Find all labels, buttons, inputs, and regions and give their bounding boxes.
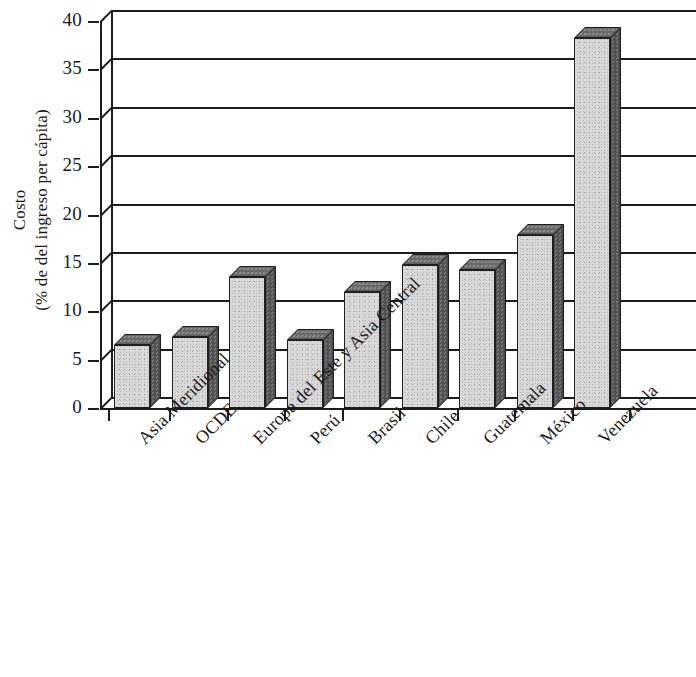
y-axis-line-back — [111, 10, 113, 397]
y-tick-15 — [88, 263, 99, 265]
bar-side-face — [495, 259, 506, 408]
y-tick-25 — [88, 166, 99, 168]
y-tick-label: 40 — [48, 10, 82, 29]
y-tick-label: 35 — [48, 58, 82, 77]
bar-column — [402, 0, 449, 410]
bar-column — [114, 0, 161, 410]
y-tick-label: 0 — [48, 397, 82, 416]
y-tick-5 — [88, 360, 99, 362]
plot-area — [0, 0, 696, 430]
y-tick-0 — [88, 408, 99, 410]
x-tick — [342, 410, 344, 421]
y-tick-label: 20 — [48, 204, 82, 223]
bar-column — [229, 0, 276, 410]
bar-front-face — [574, 38, 610, 408]
bar-side-face — [553, 224, 564, 408]
bar-side-face — [265, 266, 276, 408]
bar-front-face — [459, 270, 495, 408]
bar-column — [287, 0, 334, 410]
bar-column — [574, 0, 621, 410]
y-tick-40 — [88, 21, 99, 23]
bar-column — [459, 0, 506, 410]
x-tick-origin — [108, 410, 110, 421]
y-tick-label: 5 — [48, 349, 82, 368]
bar-front-face — [229, 277, 265, 408]
y-tick-label: 15 — [48, 252, 82, 271]
bar-column — [517, 0, 564, 410]
bar-side-face — [610, 27, 621, 408]
y-tick-20 — [88, 215, 99, 217]
y-axis-line-front — [100, 21, 102, 408]
bar-chart: Costo (% de del ingreso per cápita) 0510… — [0, 0, 696, 677]
y-tick-35 — [88, 69, 99, 71]
y-tick-label: 25 — [48, 155, 82, 174]
bar-front-face — [114, 345, 150, 408]
y-tick-10 — [88, 311, 99, 313]
bar-side-face — [438, 254, 449, 408]
bar-side-face — [150, 334, 161, 408]
y-tick-label: 30 — [48, 107, 82, 126]
y-tick-label: 10 — [48, 300, 82, 319]
bar-column — [172, 0, 219, 410]
y-tick-30 — [88, 118, 99, 120]
